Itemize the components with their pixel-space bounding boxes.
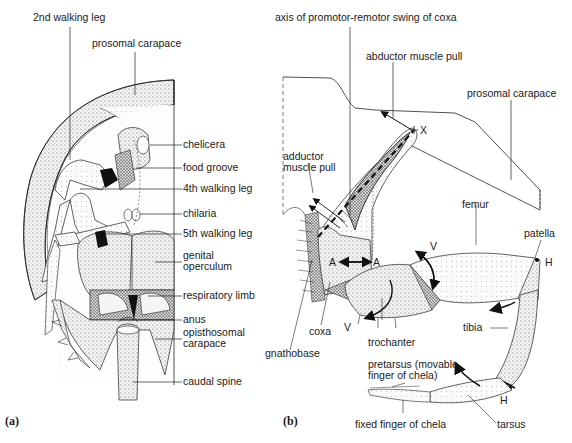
label-chilaria: chilaria <box>183 208 216 219</box>
label-coxa: coxa <box>309 326 331 337</box>
label-fixed-finger-of-chela: fixed finger of chela <box>355 419 446 430</box>
label-tibia: tibia <box>463 322 482 333</box>
label-food-groove: food groove <box>183 162 238 173</box>
label-patella: patella <box>524 228 555 239</box>
label-respiratory-limb: respiratory limb <box>183 290 255 301</box>
joint-marker-v-top: V <box>430 240 437 252</box>
label-axis-promotor-remotor: axis of promotor-remotor swing of coxa <box>275 12 456 23</box>
joint-marker-h-bottom: H <box>500 394 508 406</box>
label-prosomal-carapace-a: prosomal carapace <box>92 38 181 49</box>
label-2nd-walking-leg: 2nd walking leg <box>33 12 105 23</box>
joint-marker-a-left: A <box>329 256 336 268</box>
joint-marker-v-bottom: V <box>344 321 351 333</box>
label-abductor-muscle-pull: abductor muscle pull <box>366 51 462 62</box>
joint-marker-h-top: H <box>545 256 553 268</box>
label-adductor-muscle-pull: adductor muscle pull <box>283 151 336 173</box>
label-pretarsus: pretarsus (movable finger of chela) <box>368 359 458 381</box>
label-tarsus: tarsus <box>497 419 526 430</box>
label-opisthosomal-carapace: opisthosomal carapace <box>183 327 245 349</box>
label-femur: femur <box>462 199 489 210</box>
label-gnathobase: gnathobase <box>265 348 320 359</box>
panel-a-drawing <box>24 80 174 400</box>
label-genital-operculum: genital operculum <box>183 250 232 272</box>
label-4th-walking-leg: 4th walking leg <box>183 183 252 194</box>
joint-marker-x: X <box>420 124 427 136</box>
label-caudal-spine: caudal spine <box>183 376 242 387</box>
joint-marker-a-right: A <box>373 256 380 268</box>
panel-b-drawing <box>283 77 540 403</box>
label-chelicera: chelicera <box>183 139 225 150</box>
label-5th-walking-leg: 5th walking leg <box>183 228 252 239</box>
figure-illustration <box>0 0 572 443</box>
label-prosomal-carapace-b: prosomal carapace <box>467 88 556 99</box>
label-anus: anus <box>183 314 206 325</box>
label-trochanter: trochanter <box>368 337 415 348</box>
panel-label-b: (b) <box>283 414 298 429</box>
panel-label-a: (a) <box>5 414 19 429</box>
